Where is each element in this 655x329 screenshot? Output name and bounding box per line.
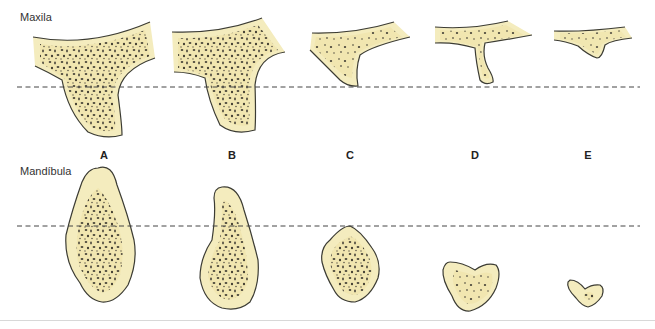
mandibula-d-shape (443, 262, 499, 311)
diagram-canvas (0, 0, 655, 329)
column-label-c: C (346, 149, 354, 161)
mandibula-a-shape (66, 167, 135, 302)
bone-resorption-diagram: Maxila Mandíbula A B C D E (0, 0, 655, 329)
mandibula-c-shape (322, 226, 379, 302)
column-label-a: A (100, 149, 108, 161)
maxila-b-shape (172, 18, 285, 132)
maxila-e-shape (554, 27, 632, 58)
column-label-d: D (471, 149, 479, 161)
maxila-d-shape (435, 21, 532, 84)
column-label-e: E (584, 149, 591, 161)
mandibula-label: Mandíbula (20, 165, 71, 177)
maxila-c-shape (310, 22, 410, 86)
bottom-divider (0, 320, 655, 321)
mandibula-b-shape (200, 187, 258, 309)
maxila-a-shape (33, 22, 155, 137)
column-label-b: B (228, 149, 236, 161)
maxila-label: Maxila (20, 11, 52, 23)
mandibula-e-shape (568, 280, 603, 307)
